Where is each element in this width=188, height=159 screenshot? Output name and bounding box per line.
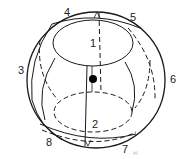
label-region-7: 7: [122, 144, 128, 155]
label-region-1: 1: [90, 38, 96, 49]
sphere-drawing: [0, 0, 188, 159]
label-region-4: 4: [64, 7, 70, 18]
side-arc-left: [42, 58, 55, 120]
center-line-solid: [85, 66, 87, 146]
label-region-8: 8: [46, 137, 52, 148]
side-arc-right: [125, 62, 135, 112]
label-region-2: 2: [92, 119, 98, 130]
label-region-3: 3: [18, 65, 24, 76]
nucleus-dot: [89, 75, 97, 83]
side-arc-right-dashed: [135, 60, 150, 108]
label-region-5: 5: [130, 12, 136, 23]
label-region-6: 6: [170, 74, 176, 85]
bottom-marker: [85, 140, 91, 146]
caption-mark: (a): [133, 151, 138, 155]
sphere-diagram: 1 2 3 4 5 6 7 8 (a): [0, 0, 188, 159]
